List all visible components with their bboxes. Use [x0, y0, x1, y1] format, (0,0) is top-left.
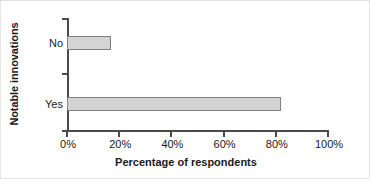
x-axis-tick-label-40: 40% — [149, 138, 195, 151]
x-axis-tick-20 — [118, 132, 120, 137]
y-tick-label-no: No — [9, 37, 63, 49]
bar-no — [67, 36, 111, 50]
x-axis-tick-60 — [223, 132, 225, 137]
x-axis-tick-80 — [275, 132, 277, 137]
x-axis-tick-40 — [170, 132, 172, 137]
x-axis-line — [67, 130, 329, 132]
x-axis-tick-label-0: 0% — [45, 138, 91, 151]
x-axis-tick-label-60: 60% — [202, 138, 248, 151]
x-axis-tick-0 — [66, 132, 68, 137]
bar-yes — [67, 97, 281, 111]
x-axis-tick-100 — [327, 132, 329, 137]
x-axis-tick-label-100: 100% — [306, 138, 352, 151]
y-tick-label-yes: Yes — [9, 98, 63, 110]
x-axis-title: Percentage of respondents — [1, 156, 370, 168]
x-axis-tick-label-20: 20% — [97, 138, 143, 151]
x-axis-tick-label-80: 80% — [254, 138, 300, 151]
plot-area — [67, 19, 328, 130]
y-axis-tick-labels: No Yes — [5, 1, 63, 179]
bar-chart-figure: Notable innovations No Yes 0%20%40%60%80… — [0, 0, 370, 179]
